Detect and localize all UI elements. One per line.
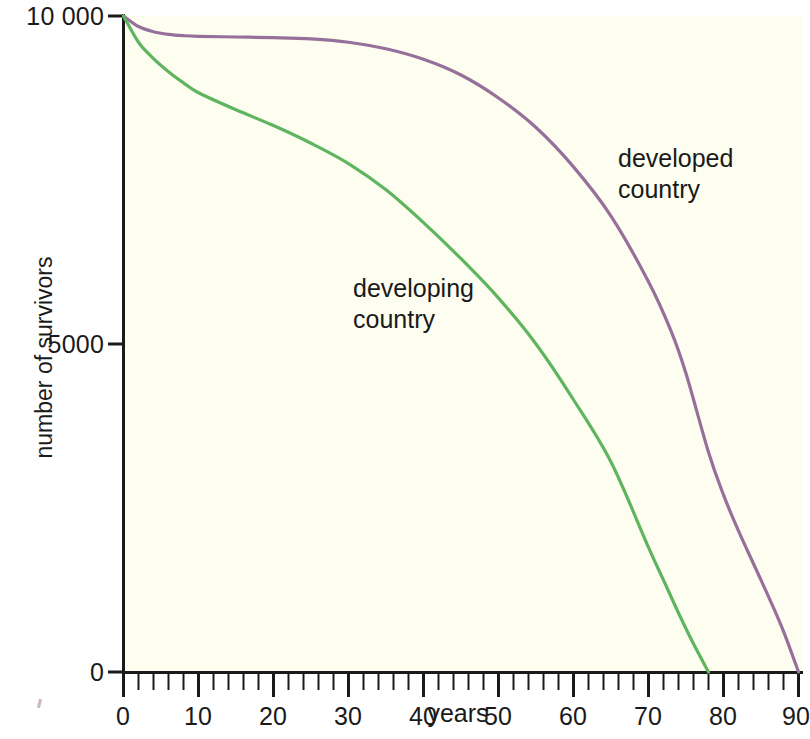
x-tick-label-70: 70 (634, 702, 662, 731)
x-tick-label-20: 20 (259, 702, 287, 731)
x-tick-label-50: 50 (484, 702, 512, 731)
series-label-developing-country: developing country (353, 273, 474, 335)
x-tick-label-0: 0 (116, 702, 130, 731)
series-line-developing-country (124, 16, 709, 672)
y-tick-label-0: 0 (0, 658, 104, 687)
x-tick-label-10: 10 (184, 702, 212, 731)
series-label-developed-line2: country (618, 174, 733, 205)
y-tick-label-5000: 5000 (0, 330, 104, 359)
y-axis-ticks (108, 16, 123, 672)
series-label-developing-line1: developing (353, 273, 474, 304)
y-tick-label-10000: 10 000 (0, 2, 104, 31)
axis-lines (122, 14, 803, 673)
series-label-developed-country: developed country (618, 143, 733, 205)
x-tick-label-30: 30 (334, 702, 362, 731)
x-tick-label-80: 80 (709, 702, 737, 731)
series-label-developed-line1: developed (618, 143, 733, 174)
x-tick-label-90: 90 (782, 702, 810, 731)
x-tick-label-40: 40 (409, 702, 437, 731)
series-label-developing-line2: country (353, 304, 474, 335)
x-tick-label-60: 60 (559, 702, 587, 731)
x-axis-ticks (124, 672, 799, 697)
series-line-developed-country (124, 16, 799, 672)
